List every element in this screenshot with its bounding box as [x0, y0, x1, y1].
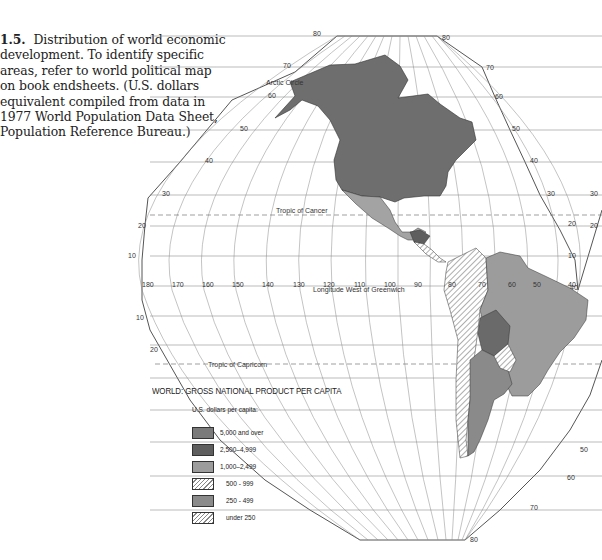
latitude-tick-label-right: 20	[590, 222, 598, 229]
legend-item: 5,000 and over	[192, 424, 372, 441]
legend-label: 2,500–4,999	[220, 445, 256, 454]
legend-label: 5,000 and over	[220, 428, 263, 437]
legend-swatch	[192, 495, 214, 507]
latitude-tick-label-right: 70	[530, 504, 538, 511]
longitude-tick-label: 180	[142, 281, 154, 288]
legend-swatch	[192, 512, 214, 524]
legend-swatch	[192, 461, 214, 473]
latitude-tick-label-right: 50	[580, 446, 588, 453]
longitude-tick-label: 150	[232, 281, 244, 288]
region-central-america	[410, 230, 430, 244]
latitude-tick-label-left: 80	[313, 30, 321, 37]
latitude-tick-label-left: 40	[205, 157, 213, 164]
label-longitude: Longitude West of Greenwich	[313, 286, 405, 294]
map-title: WORLD: GROSS NATIONAL PRODUCT PER CAPITA	[152, 386, 341, 396]
latitude-tick-label-right: 10	[568, 252, 576, 259]
longitude-tick-label: 140	[262, 281, 274, 288]
latitude-tick-label-right: 70	[486, 64, 494, 71]
legend-label: 500 - 999	[226, 479, 253, 488]
latitude-tick-label-right: 60	[567, 474, 575, 481]
legend-items: 5,000 and over2,500–4,9991,000–2,499500 …	[192, 424, 372, 526]
latitude-tick-label-right: 40	[530, 157, 538, 164]
legend-label: 1,000–2,499	[220, 462, 256, 471]
longitude-tick-label: 170	[172, 281, 184, 288]
latitude-tick-label-left: 10	[136, 314, 144, 321]
label-arctic-circle: Arctic Circle	[266, 79, 303, 86]
legend-swatch	[192, 444, 214, 456]
legend-label: 250 - 499	[226, 496, 253, 505]
label-tropic-of-cancer: Tropic of Cancer	[276, 207, 328, 215]
label-tropic-of-capricorn: Tropic of Capricorn	[208, 361, 267, 369]
legend-label: under 250	[226, 513, 255, 522]
latitude-tick-label-left: 30	[162, 190, 170, 197]
longitude-tick-label: 130	[293, 281, 305, 288]
legend-item: 500 - 999	[192, 475, 372, 492]
latitude-tick-label-left: 20	[150, 346, 158, 353]
latitude-tick-label-left: 20	[138, 222, 146, 229]
latitude-tick-label-left: 10	[128, 252, 136, 259]
map-legend: WORLD: GROSS NATIONAL PRODUCT PER CAPITA…	[152, 386, 372, 526]
legend-item: 2,500–4,999	[192, 441, 372, 458]
longitude-tick-label: 90	[414, 281, 422, 288]
latitude-tick-label-right: 80	[442, 34, 450, 41]
longitude-tick-label: 70	[478, 281, 486, 288]
legend-subtitle: U.S. dollars per capita:	[192, 405, 351, 414]
latitude-tick-label-right: 50	[512, 125, 520, 132]
legend-item: under 250	[192, 509, 372, 526]
latitude-tick-label-left: 50	[240, 125, 248, 132]
latitude-tick-label-right: 80	[470, 536, 478, 543]
legend-swatch	[192, 427, 214, 439]
latitude-tick-label-right: 60	[495, 93, 503, 100]
longitude-tick-label: 80	[448, 281, 456, 288]
legend-item: 250 - 499	[192, 492, 372, 509]
longitude-tick-label: 160	[202, 281, 214, 288]
legend-swatch	[192, 478, 214, 490]
latitude-tick-label-right: 40	[570, 284, 578, 291]
latitude-tick-label-left: 70	[283, 62, 291, 69]
latitude-tick-label-right: 30	[547, 190, 555, 197]
latitude-tick-label-right: 30	[590, 190, 598, 197]
longitude-tick-label: 60	[508, 281, 516, 288]
longitude-tick-label: 50	[533, 281, 541, 288]
latitude-tick-label-right: 20	[568, 220, 576, 227]
legend-item: 1,000–2,499	[192, 458, 372, 475]
region-north-america	[275, 55, 476, 202]
latitude-tick-label-left: 60	[268, 92, 276, 99]
